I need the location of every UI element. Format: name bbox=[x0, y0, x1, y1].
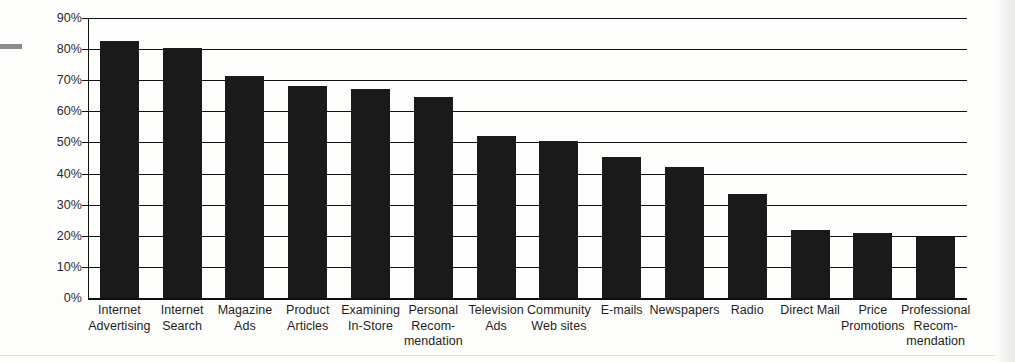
y-tick-label-20: 20% bbox=[38, 230, 82, 243]
gridline-90 bbox=[88, 18, 967, 19]
y-tick-label-10: 10% bbox=[38, 261, 82, 274]
gridline-80 bbox=[88, 49, 967, 50]
page-bottom-rule bbox=[0, 355, 995, 356]
y-axis-labels: 0%10%20%30%40%50%60%70%80%90% bbox=[26, 0, 82, 362]
gridline-20 bbox=[88, 236, 967, 237]
bar-chart: 0%10%20%30%40%50%60%70%80%90% InternetAd… bbox=[0, 0, 1015, 362]
bar bbox=[414, 97, 453, 298]
plot-area bbox=[88, 18, 967, 298]
gridline-70 bbox=[88, 80, 967, 81]
gridline-50 bbox=[88, 142, 967, 143]
y-tick-label-60: 60% bbox=[38, 105, 82, 118]
x-tick-label-line: mendation bbox=[897, 334, 974, 350]
gridline-10 bbox=[88, 267, 967, 268]
bar bbox=[477, 136, 516, 298]
x-tick-label-line: Recom- bbox=[897, 319, 974, 335]
x-tick-label-line: mendation bbox=[395, 334, 472, 350]
y-tick-label-90: 90% bbox=[38, 12, 82, 25]
bar bbox=[288, 86, 327, 298]
bar bbox=[853, 233, 892, 298]
bar bbox=[665, 167, 704, 298]
bar bbox=[351, 89, 390, 298]
x-tick-label: ProfessionalRecom-mendation bbox=[897, 303, 974, 350]
bar bbox=[163, 48, 202, 298]
axis-baseline bbox=[88, 298, 967, 300]
bar bbox=[791, 230, 830, 298]
bar bbox=[728, 194, 767, 298]
bar bbox=[225, 76, 264, 298]
x-tick-label-line: Professional bbox=[897, 303, 974, 319]
y-tick-label-80: 80% bbox=[38, 43, 82, 56]
bar bbox=[916, 237, 955, 298]
bar bbox=[539, 141, 578, 298]
x-axis-labels: InternetAdvertisingInternetSearchMagazin… bbox=[88, 303, 967, 361]
y-tick-label-30: 30% bbox=[38, 199, 82, 212]
y-tick-label-50: 50% bbox=[38, 136, 82, 149]
y-tick-label-40: 40% bbox=[38, 168, 82, 181]
y-tick-label-0: 0% bbox=[38, 292, 82, 305]
bar bbox=[100, 41, 139, 298]
gridline-60 bbox=[88, 111, 967, 112]
y-tick-label-70: 70% bbox=[38, 74, 82, 87]
x-tick-label-line: Web sites bbox=[521, 319, 598, 335]
figure-page: 0%10%20%30%40%50%60%70%80%90% InternetAd… bbox=[0, 0, 1015, 362]
gridline-30 bbox=[88, 205, 967, 206]
gridline-40 bbox=[88, 174, 967, 175]
page-edge-shading bbox=[995, 0, 1015, 362]
bar bbox=[602, 157, 641, 298]
